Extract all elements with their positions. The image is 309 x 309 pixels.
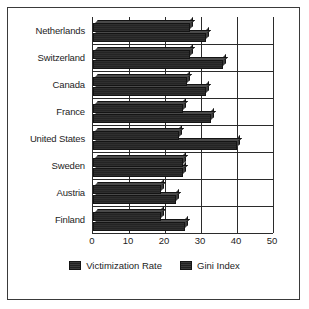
bar-side-bevel bbox=[161, 206, 164, 218]
bar-face bbox=[93, 50, 190, 59]
legend-label: Gini Index bbox=[197, 260, 240, 271]
bar-side-bevel bbox=[190, 44, 193, 56]
bar-victimization-rate[interactable] bbox=[93, 212, 161, 221]
bar-group: 2731.5 bbox=[93, 17, 273, 44]
category-label: Switzerland bbox=[8, 44, 90, 71]
bar-face bbox=[93, 131, 179, 140]
bar-face bbox=[93, 185, 161, 194]
bar-side-bevel bbox=[206, 81, 209, 93]
category-label: Finland bbox=[8, 206, 90, 233]
legend-item[interactable]: Gini Index bbox=[180, 260, 240, 271]
legend-swatch-victimization bbox=[69, 261, 81, 270]
bar-face bbox=[93, 168, 183, 177]
x-axis-tick-label: 20 bbox=[159, 235, 170, 246]
bar-victimization-rate[interactable] bbox=[93, 158, 183, 167]
bar-face bbox=[93, 87, 206, 96]
x-axis-tick-label: 30 bbox=[195, 235, 206, 246]
bar-face bbox=[93, 141, 237, 150]
bar-gini-index[interactable] bbox=[93, 222, 185, 231]
chart-plot-wrapper: NetherlandsSwitzerlandCanadaFranceUnited… bbox=[8, 8, 301, 301]
bar-face bbox=[93, 104, 183, 113]
bar-gini-index[interactable] bbox=[93, 33, 206, 42]
legend-swatch-gini bbox=[180, 261, 192, 270]
bar-group: 2631.5 bbox=[93, 71, 273, 98]
bar-side-bevel bbox=[237, 135, 240, 147]
bar-face bbox=[93, 23, 190, 32]
bar-side-bevel bbox=[223, 54, 226, 66]
bar-victimization-rate[interactable] bbox=[93, 77, 187, 86]
bar-victimization-rate[interactable] bbox=[93, 104, 183, 113]
bar-group: 1923.1 bbox=[93, 179, 273, 206]
bar-side-bevel bbox=[185, 216, 188, 228]
plot-area: 2731.52736.12631.52532.72440.125251923.1… bbox=[92, 17, 273, 234]
bar-gini-index[interactable] bbox=[93, 60, 223, 69]
bar-side-bevel bbox=[206, 27, 209, 39]
bar-gini-index[interactable] bbox=[93, 168, 183, 177]
legend-item[interactable]: Victimization Rate bbox=[69, 260, 162, 271]
bar-face bbox=[93, 222, 185, 231]
bar-group: 2525 bbox=[93, 152, 273, 179]
category-label: Netherlands bbox=[8, 17, 90, 44]
bar-face bbox=[93, 33, 206, 42]
bar-group: 1925.6 bbox=[93, 206, 273, 233]
bar-group: 2736.1 bbox=[93, 44, 273, 71]
category-label: Sweden bbox=[8, 152, 90, 179]
bar-group: 2440.1 bbox=[93, 125, 273, 152]
bar-side-bevel bbox=[211, 108, 214, 120]
category-label: France bbox=[8, 98, 90, 125]
bar-side-bevel bbox=[161, 179, 164, 191]
category-label: Canada bbox=[8, 71, 90, 98]
bar-victimization-rate[interactable] bbox=[93, 185, 161, 194]
x-axis-tick-label: 50 bbox=[267, 235, 278, 246]
chart-legend: Victimization RateGini Index bbox=[8, 260, 301, 271]
bar-side-bevel bbox=[190, 17, 193, 29]
x-axis-tick-label: 10 bbox=[123, 235, 134, 246]
x-axis-tick-label: 0 bbox=[89, 235, 94, 246]
bar-face bbox=[93, 195, 176, 204]
legend-label: Victimization Rate bbox=[86, 260, 162, 271]
category-label: Austria bbox=[8, 179, 90, 206]
bar-gini-index[interactable] bbox=[93, 114, 211, 123]
chart-frame: NetherlandsSwitzerlandCanadaFranceUnited… bbox=[7, 7, 300, 300]
bar-face bbox=[93, 212, 161, 221]
bar-gini-index[interactable] bbox=[93, 195, 176, 204]
bar-side-bevel bbox=[176, 189, 179, 201]
bar-side-bevel bbox=[179, 125, 182, 137]
bar-face bbox=[93, 114, 211, 123]
bar-victimization-rate[interactable] bbox=[93, 23, 190, 32]
bar-face bbox=[93, 60, 223, 69]
gridline-vertical bbox=[273, 17, 274, 233]
bar-face bbox=[93, 158, 183, 167]
bar-group: 2532.7 bbox=[93, 98, 273, 125]
bar-victimization-rate[interactable] bbox=[93, 50, 190, 59]
bar-side-bevel bbox=[183, 162, 186, 174]
category-label: United States bbox=[8, 125, 90, 152]
bar-side-bevel bbox=[183, 98, 186, 110]
category-axis: NetherlandsSwitzerlandCanadaFranceUnited… bbox=[8, 17, 90, 233]
bar-side-bevel bbox=[187, 71, 190, 83]
bar-face bbox=[93, 77, 187, 86]
bar-gini-index[interactable] bbox=[93, 141, 237, 150]
bar-gini-index[interactable] bbox=[93, 87, 206, 96]
bar-victimization-rate[interactable] bbox=[93, 131, 179, 140]
x-axis: 01020304050 bbox=[92, 235, 272, 249]
x-axis-tick-label: 40 bbox=[231, 235, 242, 246]
